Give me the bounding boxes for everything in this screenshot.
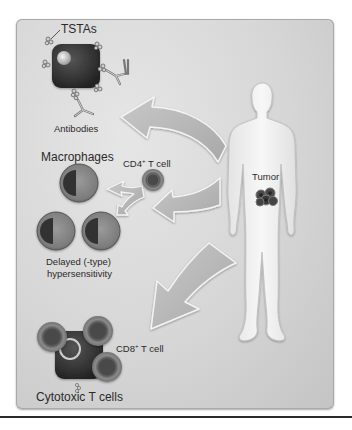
tumor-cell-with-tstas-icon bbox=[52, 44, 100, 88]
diagram-artwork bbox=[0, 0, 352, 430]
tumor-cluster-icon bbox=[256, 188, 278, 206]
cd8-t-cell-icon bbox=[92, 352, 122, 382]
label-cd4-t-cell: CD4+ T cell bbox=[123, 158, 171, 169]
arrow-to-cytotoxic-t-cells bbox=[151, 243, 236, 329]
macrophage-icon bbox=[60, 164, 98, 202]
macrophage-icon bbox=[82, 212, 120, 250]
label-macrophages: Macrophages bbox=[41, 150, 114, 164]
label-tstas: TSTAs bbox=[61, 22, 97, 36]
label-delayed-line2: hypersensitivity bbox=[47, 268, 112, 279]
arrow-to-antibodies bbox=[121, 97, 226, 162]
label-delayed-line1: Delayed (-type) bbox=[46, 256, 111, 267]
cd4-prefix: CD4 bbox=[123, 158, 142, 169]
cd4-suffix: T cell bbox=[146, 158, 171, 169]
label-antibodies: Antibodies bbox=[54, 123, 98, 134]
bottom-divider bbox=[0, 416, 352, 418]
arrow-to-macrophages bbox=[107, 181, 144, 215]
label-cytotoxic-t-cells: Cytotoxic T cells bbox=[36, 390, 123, 404]
human-body-icon bbox=[228, 83, 296, 341]
arrow-to-cd4-t-cell bbox=[153, 178, 220, 222]
macrophage-icon bbox=[37, 212, 75, 250]
cd8-t-cell-icon bbox=[37, 322, 67, 352]
cd8-t-cell-icon bbox=[83, 316, 113, 346]
cd8-prefix: CD8 bbox=[116, 343, 135, 354]
cd8-suffix: T cell bbox=[139, 343, 164, 354]
label-tumor: Tumor bbox=[252, 171, 279, 182]
tsta-pointer-line bbox=[51, 30, 60, 39]
label-cd8-t-cell: CD8+ T cell bbox=[116, 343, 164, 354]
cd4-t-cell-icon bbox=[142, 169, 164, 191]
